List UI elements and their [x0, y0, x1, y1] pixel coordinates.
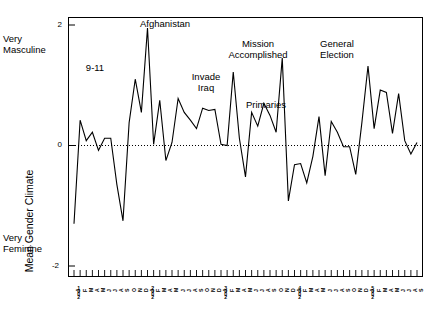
x-tick-label: M	[321, 288, 326, 292]
y-axis-title-wrapper: Mean Gender Climate	[8, 80, 30, 210]
chart-figure: Very Masculine Very Feminine Mean Gender…	[0, 0, 427, 327]
x-tick-label: M	[174, 288, 179, 292]
x-tick-label: S	[419, 289, 424, 292]
y-axis-ticks	[69, 25, 75, 266]
y-tick-label-0: 0	[48, 140, 62, 149]
annotation-9-11: 9-11	[86, 62, 104, 73]
annotation-afghanistan: Afghanistan	[140, 18, 190, 29]
annotation-general-election: General Election	[320, 38, 354, 60]
annotation-mission-accomplished: Mission Accomplished	[228, 38, 287, 60]
annotation-primaries: Primaries	[246, 99, 286, 110]
x-axis-ticks	[74, 270, 417, 276]
y-axis-title: Mean Gender Climate	[23, 156, 35, 286]
x-tick-label: S	[272, 289, 277, 292]
x-year-label: 2003	[223, 287, 228, 299]
y-tick-label-minus2: -2	[45, 261, 59, 270]
annotation-invade-iraq: Invade Iraq	[192, 71, 221, 93]
y-tick-label-2: 2	[48, 20, 62, 29]
x-axis-labels: J2001FMAMJJASONDJ2002FMAMJJASONDJ2003FMA…	[68, 280, 423, 326]
x-year-label: 2005	[370, 287, 375, 299]
very-masculine-label: Very Masculine	[3, 33, 46, 55]
x-tick-label: S	[125, 289, 130, 292]
x-year-label: 2001	[76, 287, 81, 299]
